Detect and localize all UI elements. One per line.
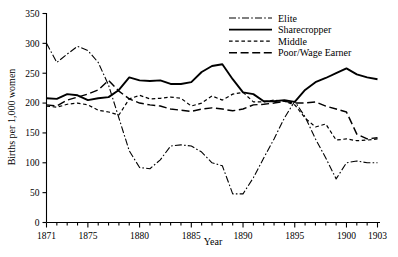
y-tick-label: 100: [25, 158, 40, 168]
y-axis-title: Births per 1,000 women: [6, 69, 17, 166]
x-tick-label: 1871: [37, 231, 56, 241]
line-chart: 050100150200250300350 187118751880188518…: [0, 0, 398, 257]
x-axis-title: Year: [204, 236, 223, 247]
y-tick-label: 250: [25, 69, 40, 79]
y-axis-ticks: [43, 14, 47, 223]
x-tick-label: 1880: [130, 231, 149, 241]
y-tick-label: 300: [25, 39, 40, 49]
data-series-group: [47, 43, 378, 193]
x-tick-label: 1903: [368, 231, 387, 241]
legend-label-middle: Middle: [278, 36, 307, 47]
y-tick-label: 0: [35, 218, 40, 228]
x-tick-label: 1895: [285, 231, 304, 241]
y-tick-label: 350: [25, 9, 40, 19]
x-tick-label: 1875: [78, 231, 97, 241]
legend-label-poor-wage-earner: Poor/Wage Earner: [278, 47, 352, 58]
x-axis-ticks: [47, 223, 378, 228]
y-tick-label: 150: [25, 128, 40, 138]
chart-legend: EliteSharecropperMiddlePoor/Wage Earner: [229, 13, 352, 59]
legend-label-elite: Elite: [278, 13, 297, 24]
y-tick-label: 50: [30, 188, 40, 198]
x-tick-label: 1885: [182, 231, 201, 241]
y-tick-label: 200: [25, 98, 40, 108]
legend-label-sharecropper: Sharecropper: [278, 24, 332, 35]
figure-container: 050100150200250300350 187118751880188518…: [0, 0, 398, 257]
x-tick-label: 1900: [337, 231, 356, 241]
x-tick-label: 1890: [234, 231, 253, 241]
y-axis-tick-labels: 050100150200250300350: [25, 9, 40, 228]
